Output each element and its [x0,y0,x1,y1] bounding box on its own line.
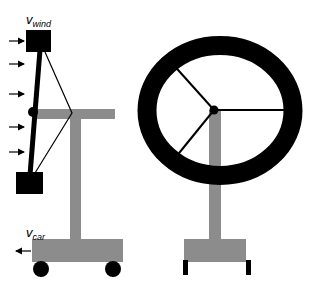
left-apparatus: vwind vcar [9,12,123,277]
stand-leg-right [246,260,251,275]
wheel-hub [210,106,219,115]
car-velocity-label: vcar [26,225,46,242]
wheel-stand-base [184,239,246,262]
diagram-canvas: vwind vcar [0,0,316,290]
pivot-dot [28,107,38,117]
stand-leg-left [183,260,188,275]
wheel-spoke [170,61,214,110]
wind-velocity-label: vwind [26,12,52,29]
bottom-mass [16,172,43,194]
wind-arrows [9,41,24,152]
wheel-spoke [171,110,214,163]
car-wheel-left [33,261,49,277]
right-apparatus [147,46,293,276]
car-wheel-right [105,261,121,277]
top-mass [26,30,51,52]
car-body [32,239,123,262]
t-bar-post [70,115,81,241]
